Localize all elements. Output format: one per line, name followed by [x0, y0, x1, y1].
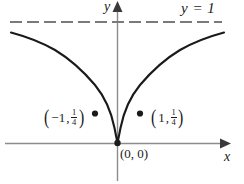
- left-fraction-denominator: 4: [71, 117, 77, 127]
- math-figure: y = 1 y x (0, 0) ( −1 , 1 4 ) ( 1 , 1 4 …: [0, 0, 244, 184]
- left-fraction-numerator: 1: [71, 108, 77, 117]
- right-open-paren: (: [151, 106, 156, 128]
- right-point-label: ( 1 , 1 4 ): [150, 106, 185, 128]
- point-marker-left: [92, 110, 98, 116]
- x-axis-label: x: [224, 150, 230, 164]
- left-point-label: ( −1 , 1 4 ): [43, 106, 85, 128]
- right-x-value: 1: [157, 111, 166, 124]
- asymptote-label: y = 1: [181, 1, 215, 16]
- left-open-paren: (: [44, 106, 49, 128]
- x-axis-arrowhead: [220, 139, 231, 149]
- point-marker-right: [137, 110, 143, 116]
- y-axis-arrowhead: [113, 1, 123, 12]
- right-fraction-denominator: 4: [171, 117, 177, 127]
- left-fraction: 1 4: [70, 108, 77, 127]
- right-fraction: 1 4: [170, 108, 177, 127]
- left-x-value: −1: [50, 111, 66, 124]
- y-axis-label: y: [104, 0, 110, 14]
- right-close-paren: ): [178, 106, 183, 128]
- left-close-paren: ): [79, 106, 84, 128]
- origin-point-label: (0, 0): [120, 147, 148, 160]
- right-fraction-numerator: 1: [171, 108, 177, 117]
